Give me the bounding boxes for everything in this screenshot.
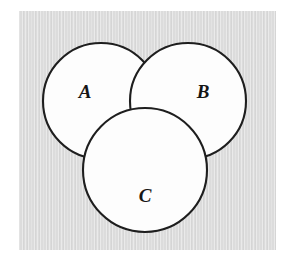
set-label-b: B [196, 81, 210, 102]
set-label-a: A [78, 81, 92, 102]
figure-root: A B C [0, 0, 285, 269]
venn-diagram-canvas: A B C [0, 0, 285, 269]
venn-circle-c[interactable] [83, 108, 207, 232]
set-label-c: C [139, 185, 152, 206]
